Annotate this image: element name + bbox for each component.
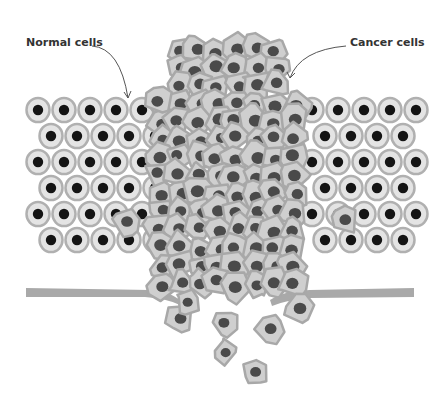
normal-nucleus xyxy=(33,105,43,115)
cancer-nucleus xyxy=(177,278,188,288)
normal-nucleus xyxy=(85,105,95,115)
cancer-nucleus xyxy=(294,303,307,314)
normal-nucleus xyxy=(98,235,108,245)
normal-nucleus xyxy=(98,183,108,193)
normal-nucleus xyxy=(72,235,82,245)
cancer-nucleus xyxy=(286,278,298,289)
cancer-nucleus xyxy=(173,81,184,91)
normal-nucleus xyxy=(85,157,95,167)
normal-nucleus xyxy=(398,183,408,193)
normal-nucleus xyxy=(398,131,408,141)
normal-nucleus xyxy=(307,209,317,219)
cancer-cells-arrow xyxy=(290,46,346,78)
cancer-nucleus xyxy=(228,260,241,272)
normal-nucleus xyxy=(359,105,369,115)
cancer-nucleus xyxy=(265,323,277,334)
cancer-nucleus xyxy=(339,214,351,225)
cancer-nucleus xyxy=(173,240,186,251)
cancer-nucleus xyxy=(171,168,183,179)
normal-nucleus xyxy=(72,131,82,141)
cancer-nucleus xyxy=(271,78,282,88)
normal-nucleus xyxy=(359,157,369,167)
normal-nucleus xyxy=(72,183,82,193)
cancer-nucleus xyxy=(191,185,204,197)
normal-nucleus xyxy=(33,209,43,219)
cancer-nucleus xyxy=(151,167,162,177)
normal-nucleus xyxy=(320,131,330,141)
tissue-illustration xyxy=(0,0,436,404)
cancer-nucleus xyxy=(268,132,280,143)
normal-nucleus xyxy=(124,131,134,141)
normal-nucleus xyxy=(372,235,382,245)
normal-nucleus xyxy=(346,235,356,245)
normal-nucleus xyxy=(411,157,421,167)
cancer-nucleus xyxy=(228,62,240,73)
normal-nucleus xyxy=(372,131,382,141)
normal-nucleus xyxy=(59,209,69,219)
cancer-nucleus xyxy=(156,281,168,292)
cancer-nucleus xyxy=(286,149,299,161)
cancer-nucleus xyxy=(229,130,241,141)
normal-nucleus xyxy=(372,183,382,193)
cancer-nucleus xyxy=(292,189,303,199)
normal-nucleus xyxy=(111,157,121,167)
normal-nucleus xyxy=(320,183,330,193)
cancer-nucleus xyxy=(218,318,229,328)
cancer-nucleus xyxy=(170,115,182,126)
normal-nucleus xyxy=(346,131,356,141)
cancer-nucleus xyxy=(266,242,278,253)
normal-nucleus xyxy=(359,209,369,219)
cancer-nucleus xyxy=(151,96,163,107)
cancer-nucleus xyxy=(191,117,204,128)
cancer-nucleus xyxy=(287,133,299,144)
cancer-nucleus xyxy=(221,348,231,357)
cancer-nucleus xyxy=(183,298,193,307)
normal-nucleus xyxy=(320,235,330,245)
normal-nucleus xyxy=(385,105,395,115)
normal-nucleus xyxy=(411,105,421,115)
normal-nucleus xyxy=(346,183,356,193)
cancer-nucleus xyxy=(268,46,279,56)
normal-nucleus xyxy=(59,105,69,115)
normal-nucleus xyxy=(333,157,343,167)
cancer-nucleus xyxy=(288,170,301,181)
normal-nucleus xyxy=(46,235,56,245)
normal-nucleus xyxy=(59,157,69,167)
normal-nucleus xyxy=(85,209,95,219)
cancer-nucleus xyxy=(231,97,243,107)
normal-nucleus xyxy=(333,105,343,115)
normal-nucleus xyxy=(46,131,56,141)
normal-nucleus xyxy=(33,157,43,167)
normal-cells-arrow xyxy=(92,46,128,98)
cancer-nucleus xyxy=(121,216,133,227)
cancer-nucleus xyxy=(227,171,240,182)
normal-nucleus xyxy=(111,105,121,115)
cancer-nucleus xyxy=(229,281,242,293)
normal-nucleus xyxy=(98,131,108,141)
cancer-nucleus xyxy=(154,152,167,164)
normal-nucleus xyxy=(46,183,56,193)
cancer-cells-label: Cancer cells xyxy=(350,36,425,49)
normal-nucleus xyxy=(124,183,134,193)
normal-nucleus xyxy=(385,209,395,219)
cancer-nucleus xyxy=(154,239,167,251)
normal-nucleus xyxy=(411,209,421,219)
cancer-invasion-diagram: Normal cells Cancer cells xyxy=(0,0,436,404)
normal-nucleus xyxy=(398,235,408,245)
cancer-nucleus xyxy=(155,190,167,201)
cancer-nucleus xyxy=(253,63,264,73)
normal-cells-label: Normal cells xyxy=(26,36,103,49)
normal-nucleus xyxy=(385,157,395,167)
cancer-nucleus xyxy=(250,367,261,377)
